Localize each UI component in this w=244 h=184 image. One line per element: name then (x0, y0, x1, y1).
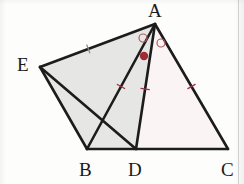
vertex-label-c: C (221, 160, 234, 179)
geometry-figure: A B C D E (0, 0, 244, 184)
geometry-canvas (0, 0, 244, 184)
vertex-label-e: E (17, 55, 29, 74)
vertex-label-d: D (128, 160, 142, 179)
vertex-label-b: B (79, 160, 92, 179)
vertex-label-a: A (148, 1, 162, 20)
angle-mark-filled (140, 52, 148, 60)
page-margin-line (238, 0, 239, 184)
